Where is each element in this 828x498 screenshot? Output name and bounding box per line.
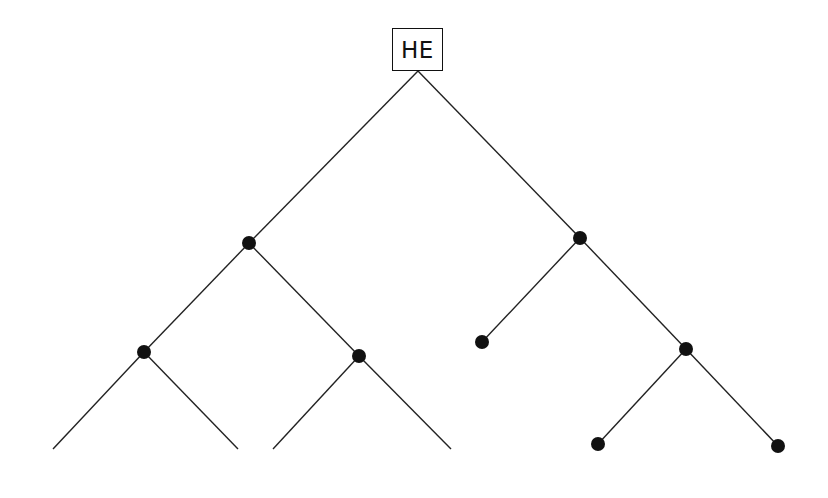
tree-edge: [686, 349, 778, 446]
tree-edge: [580, 238, 686, 349]
root-node-label: HE: [401, 37, 434, 63]
tree-node-dot: [679, 342, 693, 356]
tree-edges: [53, 71, 778, 449]
tree-node-dot: [242, 236, 256, 250]
tree-nodes: [137, 231, 785, 453]
tree-edge: [144, 243, 249, 352]
tree-edge: [482, 238, 580, 342]
tree-edge: [418, 71, 580, 238]
tree-edge: [249, 243, 359, 356]
tree-edge: [144, 352, 238, 449]
tree-edge: [273, 356, 359, 449]
tree-edge: [598, 349, 686, 444]
tree-node-dot: [771, 439, 785, 453]
tree-edge: [359, 356, 451, 449]
tree-diagram: [0, 0, 828, 498]
tree-edge: [53, 352, 144, 449]
root-node-label-box: HE: [392, 28, 443, 71]
tree-node-dot: [591, 437, 605, 451]
tree-node-dot: [137, 345, 151, 359]
tree-node-dot: [352, 349, 366, 363]
tree-node-dot: [573, 231, 587, 245]
tree-edge: [249, 71, 418, 243]
tree-node-dot: [475, 335, 489, 349]
